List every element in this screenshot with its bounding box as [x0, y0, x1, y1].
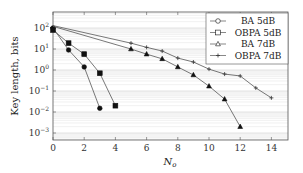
legend-label: OBPA 5dB [235, 28, 282, 38]
x-tick-label: 2 [81, 143, 87, 153]
y-tick-label: 10−2 [29, 105, 49, 117]
legend-label: BA 5dB [241, 16, 275, 26]
y-tick-label: 102 [34, 21, 49, 33]
x-tick-label: 12 [234, 143, 245, 153]
x-axis-label: No [163, 156, 177, 169]
x-tick-label: 14 [266, 143, 278, 153]
y-tick-label: 10−3 [29, 126, 49, 138]
x-tick-label: 10 [203, 143, 215, 153]
x-tick-label: 6 [144, 143, 150, 153]
legend-label: OBPA 7dB [235, 51, 282, 61]
y-axis-label: Key length, bits [9, 36, 20, 115]
y-tick-label: 100 [34, 63, 49, 75]
legend: BA 5dBOBPA 5dBBA 7dBOBPA 7dB [206, 13, 288, 64]
legend-label: BA 7dB [241, 39, 275, 49]
x-tick-label: 4 [113, 143, 119, 153]
y-axis-ticks: 10−310−210−1100101102 [29, 21, 56, 138]
y-tick-label: 10−1 [29, 84, 49, 96]
x-axis-label-sub: o [172, 161, 176, 169]
x-tick-label: 0 [50, 143, 56, 153]
y-tick-label: 101 [34, 42, 49, 54]
key-length-chart: 02468101214 10−310−210−1100101102 BA 5dB… [0, 0, 303, 173]
x-tick-label: 8 [175, 143, 181, 153]
